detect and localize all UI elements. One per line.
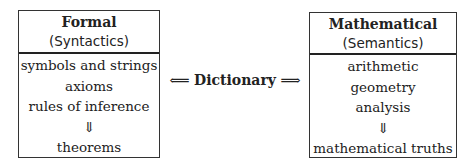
formal-body: symbols and strings axioms rules of infe… — [19, 54, 159, 158]
list-item: axioms — [19, 76, 159, 97]
formal-header: Formal (Syntactics) — [19, 11, 159, 54]
formal-box: Formal (Syntactics) symbols and strings … — [18, 10, 160, 158]
dictionary-connector: ⟸ Dictionary ⟹ — [166, 72, 304, 88]
list-item: arithmetic — [310, 56, 456, 77]
down-arrow-icon: ⇓ — [19, 117, 159, 138]
left-double-arrow-icon: ⟸ — [170, 72, 190, 88]
list-item: geometry — [310, 77, 456, 98]
dictionary-label: Dictionary — [194, 72, 276, 88]
mathematical-title: Mathematical — [310, 13, 456, 34]
mathematical-box: Mathematical (Semantics) arithmetic geom… — [309, 12, 457, 158]
list-item: rules of inference — [19, 96, 159, 117]
mathematical-header: Mathematical (Semantics) — [310, 13, 456, 55]
formal-result: theorems — [19, 137, 159, 158]
down-arrow-icon: ⇓ — [310, 118, 456, 139]
mathematical-result: mathematical truths — [310, 138, 456, 159]
right-double-arrow-icon: ⟹ — [280, 72, 300, 88]
list-item: analysis — [310, 97, 456, 118]
formal-subtitle: (Syntactics) — [19, 32, 159, 51]
list-item: symbols and strings — [19, 55, 159, 76]
mathematical-subtitle: (Semantics) — [310, 34, 456, 53]
formal-title: Formal — [19, 11, 159, 32]
mathematical-body: arithmetic geometry analysis ⇓ mathemati… — [310, 55, 456, 159]
